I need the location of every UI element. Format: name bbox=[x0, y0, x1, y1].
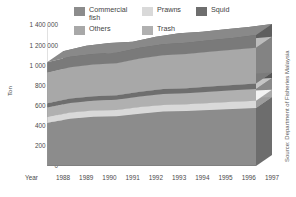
x-axis-tick-1995: 1995 bbox=[218, 174, 232, 181]
x-axis-tick-1993: 1993 bbox=[172, 174, 186, 181]
fisheries-stacked-area-chart: Commercial fish Prawns Squid Others Tras… bbox=[0, 0, 296, 197]
x-axis-tick-1988: 1988 bbox=[56, 174, 70, 181]
x-axis: Year 19881989199019911992199319941995199… bbox=[0, 174, 296, 188]
x-axis-tick-1992: 1992 bbox=[149, 174, 163, 181]
x-axis-tick-1990: 1990 bbox=[102, 174, 116, 181]
x-axis-title: Year bbox=[25, 174, 38, 181]
x-axis-tick-1989: 1989 bbox=[79, 174, 93, 181]
x-axis-tick-1994: 1994 bbox=[195, 174, 209, 181]
x-axis-tick-1997: 1997 bbox=[265, 174, 279, 181]
legend-label-squid: Squid bbox=[211, 6, 229, 14]
x-axis-tick-1991: 1991 bbox=[126, 174, 140, 181]
legend-label-prawns: Prawns bbox=[157, 6, 181, 14]
area-side-commercial-fish bbox=[256, 97, 272, 166]
source-note: Source: Department of Fisheries Malaysia bbox=[284, 50, 290, 162]
x-axis-tick-1996: 1996 bbox=[242, 174, 256, 181]
y-axis-title: Ton bbox=[6, 86, 13, 96]
stacked-area-series-group bbox=[47, 14, 272, 166]
plot-area bbox=[47, 14, 272, 166]
